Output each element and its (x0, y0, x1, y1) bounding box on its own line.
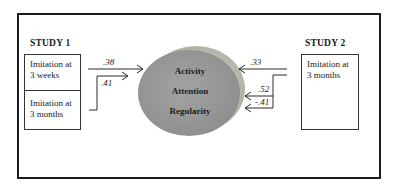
coef-study1-3weeks: .38 (103, 57, 114, 67)
coef-study2-attention: .52 (258, 84, 269, 94)
factor-attention: Attention (150, 86, 230, 96)
coef-study2-activity: .33 (250, 57, 261, 67)
arrow-study2-activity (239, 65, 287, 73)
coef-study1-3months: .41 (101, 78, 112, 88)
coef-study2-regularity: -.41 (255, 97, 269, 107)
factor-regularity: Regularity (150, 106, 230, 116)
arrow-study1-3weeks (88, 65, 143, 73)
factor-activity: Activity (150, 66, 230, 76)
arrow-study2-branch (273, 75, 287, 108)
